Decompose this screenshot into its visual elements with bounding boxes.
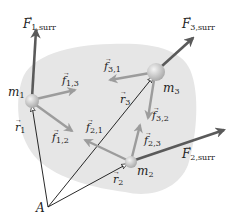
vector-accent-icon: → — [145, 129, 152, 137]
vector-accent-icon: → — [15, 116, 22, 124]
origin-A-label: A — [35, 201, 45, 215]
vector-accent-icon: → — [53, 126, 60, 134]
vector-accent-icon: → — [63, 69, 70, 77]
mass-m2-sphere — [125, 156, 137, 168]
vector-accent-icon: → — [184, 12, 192, 21]
vector-accent-icon: → — [120, 88, 127, 96]
vector-accent-icon: → — [184, 142, 192, 151]
vector-accent-icon: → — [25, 12, 33, 21]
vector-accent-icon: → — [87, 116, 94, 124]
mass-m3-sphere — [147, 63, 165, 81]
vector-accent-icon: → — [153, 104, 160, 112]
vector-accent-icon: → — [113, 168, 120, 176]
mass-m1-sphere — [25, 94, 39, 108]
three-particle-system-diagram: F1,surr → F3,surr → F2,surr → m1 m3 m2 f… — [0, 0, 233, 224]
vector-accent-icon: → — [105, 55, 112, 63]
